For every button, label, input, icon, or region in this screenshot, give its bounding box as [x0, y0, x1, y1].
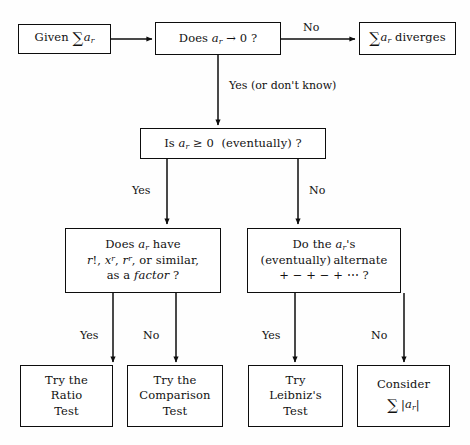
consider-absolute-series-line-1: Consider: [377, 377, 430, 392]
is-a-r-nonnegative-label: Is ar ≥ 0 (eventually) ?: [164, 136, 302, 152]
consider-absolute-series-line-2: ∑ |ar|: [387, 396, 419, 416]
edge-label-no-alternate: No: [371, 330, 387, 341]
try-leibniz-test-box: Try Leibniz's Test: [248, 365, 343, 427]
try-leibniz-test-line-2: Leibniz's: [269, 388, 322, 403]
edge-label-yes-factor: Yes: [80, 330, 98, 341]
try-comparison-test-line-2: Comparison: [139, 388, 210, 403]
try-comparison-test-box: Try the Comparison Test: [127, 365, 223, 427]
edge-label-no-nonnegative: No: [309, 185, 325, 196]
has-factorial-factor-box: Does ar have r!, xr, rr, or similar, as …: [65, 228, 221, 293]
given-series-label: Given ∑ar: [35, 29, 95, 49]
does-a-r-tend-to-zero-box: Does ar → 0 ?: [155, 22, 281, 55]
does-alternate-line-3: + − + − + ⋯ ?: [279, 268, 369, 283]
edge-label-no-factor: No: [143, 330, 159, 341]
try-ratio-test-line-3: Test: [54, 404, 79, 419]
edge-label-yes-alternate: Yes: [262, 330, 280, 341]
try-comparison-test-line-1: Try the: [154, 373, 197, 388]
try-leibniz-test-line-3: Test: [283, 404, 308, 419]
try-ratio-test-line-2: Ratio: [51, 388, 83, 403]
does-alternate-line-1: Do the ar's: [293, 237, 356, 253]
flowchart-canvas: Given ∑ar Does ar → 0 ? ∑ar diverges Is …: [0, 0, 470, 445]
edge-label-yes-or-dont-know: Yes (or don't know): [229, 80, 336, 91]
does-alternate-box: Do the ar's (eventually) alternate + − +…: [247, 228, 401, 293]
given-series-box: Given ∑ar: [18, 24, 111, 54]
series-diverges-box: ∑ar diverges: [359, 22, 456, 55]
is-a-r-nonnegative-box: Is ar ≥ 0 (eventually) ?: [140, 128, 326, 159]
edge-label-no-top: No: [303, 22, 319, 33]
try-ratio-test-box: Try the Ratio Test: [20, 365, 113, 427]
has-factorial-factor-line-3: as a factor ?: [107, 268, 180, 283]
try-leibniz-test-line-1: Try: [286, 373, 306, 388]
try-ratio-test-line-1: Try the: [45, 373, 88, 388]
consider-absolute-series-box: Consider ∑ |ar|: [357, 365, 450, 427]
edge-label-yes-nonnegative: Yes: [132, 185, 150, 196]
has-factorial-factor-line-2: r!, xr, rr, or similar,: [87, 253, 199, 268]
does-alternate-line-2: (eventually) alternate: [261, 253, 388, 268]
series-diverges-label: ∑ar diverges: [369, 29, 445, 49]
has-factorial-factor-line-1: Does ar have: [105, 237, 180, 253]
try-comparison-test-line-3: Test: [163, 404, 188, 419]
does-a-r-tend-to-zero-label: Does ar → 0 ?: [179, 31, 257, 47]
